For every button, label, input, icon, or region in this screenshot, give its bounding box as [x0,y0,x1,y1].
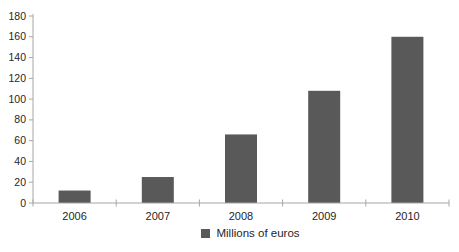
legend-label: Millions of euros [216,227,299,239]
legend: Millions of euros [0,227,459,239]
bar-2006 [59,191,91,203]
x-category-label: 2006 [62,210,86,222]
y-tick-label: 160 [8,30,26,42]
y-tick-label: 60 [14,134,26,146]
y-tick-label: 180 [8,10,26,22]
bar-2007 [142,177,174,203]
bar-2010 [391,37,423,203]
legend-swatch [201,229,210,238]
x-category-label: 2007 [146,210,170,222]
bar-2008 [225,134,257,203]
bar-chart-figure: 0204060801001201401601802006200720082009… [0,0,459,252]
y-tick-label: 120 [8,72,26,84]
y-tick-label: 40 [14,155,26,167]
chart-canvas: 0204060801001201401601802006200720082009… [0,0,459,252]
y-tick-label: 20 [14,176,26,188]
y-tick-label: 100 [8,93,26,105]
x-category-label: 2010 [395,210,419,222]
x-category-label: 2008 [229,210,253,222]
y-tick-label: 80 [14,113,26,125]
y-tick-label: 0 [20,197,26,209]
bar-2009 [308,91,340,203]
y-tick-label: 140 [8,51,26,63]
x-category-label: 2009 [312,210,336,222]
